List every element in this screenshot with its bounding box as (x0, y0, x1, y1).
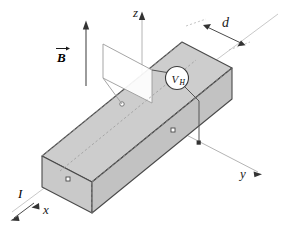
right-front-contact-marker (171, 128, 175, 132)
left-end-contact-marker (66, 177, 70, 181)
hall-effect-diagram: V H B d I (0, 0, 281, 237)
magnetic-field-arrow (83, 21, 89, 87)
current-label: I (17, 186, 23, 201)
current-arrow: I (11, 186, 35, 221)
wire-terminal-marker (197, 141, 201, 145)
width-dimension-label: d (222, 15, 230, 30)
current-arrowhead (11, 216, 20, 222)
x-axis-marker: x (32, 202, 50, 217)
vector-arrow-accent (66, 47, 70, 51)
z-axis-arrowhead (139, 12, 145, 21)
hall-voltage-subscript: H (179, 78, 186, 87)
dimension-d: d (186, 15, 250, 50)
z-axis-label: z (132, 5, 138, 20)
x-axis-label: x (42, 202, 49, 217)
magnetic-field-label: B (56, 50, 66, 65)
b-field-arrowhead (83, 21, 89, 30)
magnetic-field-label-group: B (56, 47, 70, 65)
y-axis-label: y (238, 166, 246, 181)
dimension-arrow-start (203, 24, 211, 30)
hall-effect-figure: V H B d I (0, 0, 281, 237)
